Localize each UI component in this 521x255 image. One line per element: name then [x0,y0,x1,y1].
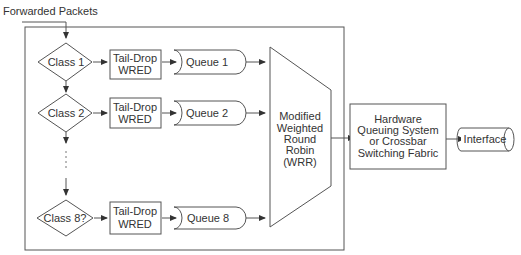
class-1-label: Class 1 [48,56,85,68]
queue-1-label: Queue 1 [186,56,228,68]
qos-queuing-diagram: Forwarded Packets Class 1 Tail-Drop WRED… [0,0,521,255]
wrr-scheduler: Modified Weighted Round Robin (WRR) [270,47,331,227]
hw-line3: or Crossbar [369,135,427,147]
drop-2-line1: Tail-Drop [113,101,157,113]
class-8-label: Class 8? [44,212,87,224]
wrr-line5: (WRR) [283,156,317,168]
interface-label: Interface [464,133,507,145]
class-row-8: Class 8? Tail-Drop WRED Queue 8 [37,200,265,236]
hardware-queuing-box: Hardware Queuing System or Crossbar Swit… [350,104,446,169]
wrr-line4: Robin [286,144,315,156]
input-arrow [22,22,66,38]
class-2-label: Class 2 [48,107,85,119]
forwarded-packets-label: Forwarded Packets [3,5,98,17]
interface-cylinder: Interface [457,128,514,151]
drop-1-line1: Tail-Drop [113,52,157,64]
class-row-2: Class 2 Tail-Drop WRED Queue 2 [38,94,265,143]
class-row-1: Class 1 Tail-Drop WRED Queue 1 [38,43,265,92]
drop-1-line2: WRED [118,64,152,76]
wrr-line1: Modified [279,110,321,122]
queue-2-label: Queue 2 [186,107,228,119]
queue-8-label: Queue 8 [187,212,229,224]
hw-line4: Switching Fabric [358,147,439,159]
drop-2-line2: WRED [118,113,152,125]
drop-8-line1: Tail-Drop [113,205,157,217]
drop-8-line2: WRED [118,218,152,230]
